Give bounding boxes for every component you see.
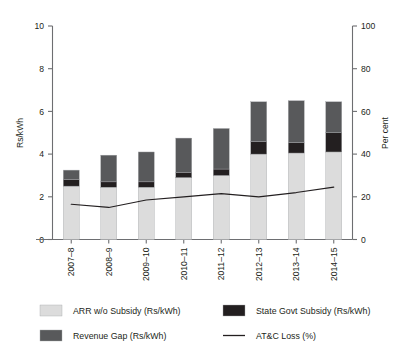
legend-item-arr: ARR w/o Subsidy (Rs/kWh): [40, 305, 181, 316]
bar-segment: [176, 172, 192, 177]
bar-group-2011–12: [213, 128, 229, 239]
y-label-right-1: 20: [361, 192, 371, 202]
x-label-2008–9: 2008–9: [104, 247, 114, 276]
bar-segment: [138, 182, 154, 187]
bar-segment: [251, 141, 267, 154]
y-axis-left-title: Rs/kWh: [15, 118, 25, 148]
y-label-left-1: 2: [39, 192, 44, 202]
legend-item-gap: Revenue Gap (Rs/kWh): [40, 330, 166, 341]
legend-label-atc: AT&C Loss (%): [256, 331, 316, 341]
bar-segment: [101, 155, 117, 182]
bar-segment: [213, 169, 229, 175]
bar-segment: [213, 175, 229, 239]
bar-segment: [138, 187, 154, 239]
bar-segment: [288, 101, 304, 143]
legend-swatch-subsidy: [223, 305, 245, 316]
chart-container: 10 8 6 4 2 0 Rs/kWh 100 80: [0, 0, 403, 352]
chart-background: [0, 0, 403, 352]
chart-svg: 10 8 6 4 2 0 Rs/kWh 100 80: [0, 0, 403, 352]
y-label-right-0: 0: [361, 235, 366, 245]
y-label-right-2: 40: [361, 149, 371, 159]
bar-segment: [101, 182, 117, 187]
bar-group-2013–14: [288, 101, 304, 240]
bar-segment: [63, 180, 79, 186]
bar-segment: [288, 153, 304, 239]
bar-segment: [63, 186, 79, 239]
bar-segment: [213, 128, 229, 169]
bar-group-2009–10: [138, 152, 154, 240]
x-label-2012–13: 2012–13: [254, 247, 264, 281]
x-label-2009–10: 2009–10: [141, 247, 151, 281]
x-label-2011–12: 2011–12: [216, 247, 226, 280]
bar-segment: [176, 138, 192, 172]
bar-segment: [176, 178, 192, 240]
y-label-left-2: 4: [39, 149, 44, 159]
bar-segment: [326, 152, 342, 240]
legend-swatch-arr: [40, 305, 62, 316]
bar-segment: [326, 133, 342, 152]
bar-group-2010–11: [176, 138, 192, 239]
y-label-left-4: 8: [39, 64, 44, 74]
x-label-2010–11: 2010–11: [179, 247, 189, 280]
y-label-right-5: 100: [361, 21, 376, 31]
bar-group-2014–15: [326, 102, 342, 240]
legend-label-subsidy: State Govt Subsidy (Rs/kWh): [256, 306, 370, 316]
bar-segment: [101, 187, 117, 239]
y-label-right-4: 80: [361, 64, 371, 74]
y-label-right-3: 60: [361, 107, 371, 117]
bar-group-2008–9: [101, 155, 117, 239]
bar-segment: [251, 102, 267, 141]
x-label-2013–14: 2013–14: [291, 247, 301, 281]
bar-segment: [63, 170, 79, 180]
y-label-left-5: 10: [34, 21, 44, 31]
legend-swatch-gap: [40, 330, 62, 341]
y-label-left-3: 6: [39, 107, 44, 117]
legend-label-gap: Revenue Gap (Rs/kWh): [73, 331, 166, 341]
x-label-2007–8: 2007–8: [66, 247, 76, 276]
x-label-2014–15: 2014–15: [329, 247, 339, 281]
bar-segment: [288, 142, 304, 153]
y-axis-right-title: Per cent: [380, 116, 390, 149]
bar-segment: [138, 152, 154, 182]
legend-label-arr: ARR w/o Subsidy (Rs/kWh): [73, 306, 181, 316]
bar-group-2012–13: [251, 102, 267, 240]
bar-segment: [326, 102, 342, 133]
legend-item-subsidy: State Govt Subsidy (Rs/kWh): [223, 305, 370, 316]
